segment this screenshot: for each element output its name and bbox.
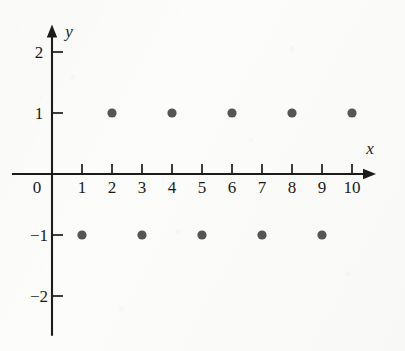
data-point bbox=[197, 230, 206, 239]
data-point bbox=[77, 230, 86, 239]
x-tick-label: 10 bbox=[344, 178, 361, 197]
y-axis-arrow bbox=[47, 25, 57, 38]
data-point bbox=[347, 108, 356, 117]
data-point bbox=[167, 108, 176, 117]
y-axis-label: y bbox=[63, 22, 73, 41]
x-tick-label: 9 bbox=[318, 178, 327, 197]
data-point bbox=[257, 230, 266, 239]
x-tick-label: 3 bbox=[138, 178, 147, 197]
x-tick-label: 8 bbox=[288, 178, 297, 197]
scatter-plot-figure: 1234567891021−1−20xy bbox=[0, 0, 405, 351]
x-tick-label: 5 bbox=[198, 178, 207, 197]
x-tick-label: 1 bbox=[78, 178, 87, 197]
data-point bbox=[107, 108, 116, 117]
x-tick-label: 7 bbox=[258, 178, 267, 197]
y-tick-label: 1 bbox=[35, 104, 44, 123]
y-tick-label: −1 bbox=[30, 226, 48, 245]
x-axis-arrow bbox=[363, 169, 376, 179]
y-tick-label: 2 bbox=[35, 43, 44, 62]
data-point bbox=[137, 230, 146, 239]
data-point bbox=[227, 108, 236, 117]
origin-label: 0 bbox=[33, 178, 42, 197]
x-tick-label: 2 bbox=[108, 178, 117, 197]
x-tick-label: 4 bbox=[168, 178, 177, 197]
data-point bbox=[317, 230, 326, 239]
plot-canvas: 1234567891021−1−20xy bbox=[0, 0, 405, 351]
x-tick-label: 6 bbox=[228, 178, 237, 197]
x-axis-label: x bbox=[365, 139, 374, 158]
y-tick-label: −2 bbox=[30, 287, 48, 306]
data-point bbox=[287, 108, 296, 117]
